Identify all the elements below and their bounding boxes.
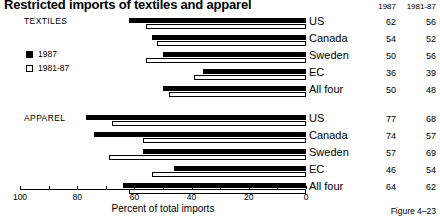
x-axis-tick-label: 80 (62, 192, 92, 202)
value-1981-87: 62 (404, 182, 436, 192)
x-axis-tick (106, 186, 107, 189)
x-axis-tick (134, 186, 135, 189)
value-1981-87: 56 (404, 17, 436, 27)
value-1981-87: 52 (404, 34, 436, 44)
x-axis-line (20, 189, 306, 190)
value-1987: 77 (370, 114, 396, 124)
x-axis-tick (20, 186, 21, 189)
category-label: Sweden (309, 146, 349, 158)
value-1981-87: 69 (404, 148, 436, 158)
category-label: EC (309, 66, 324, 78)
x-axis-tick-label: 40 (177, 192, 207, 202)
x-axis-tick (163, 186, 164, 189)
x-axis-tick (220, 186, 221, 189)
figure-container: Restricted imports of textiles and appar… (0, 0, 440, 221)
bar-1981-87 (146, 58, 306, 63)
category-label: US (309, 15, 324, 27)
bar-1981-87 (152, 172, 306, 177)
bar-1987 (203, 69, 306, 74)
category-label: US (309, 112, 324, 124)
value-1987: 50 (370, 51, 396, 61)
value-1981-87: 39 (404, 68, 436, 78)
x-axis-tick (49, 186, 50, 189)
x-axis-tick (77, 186, 78, 189)
bar-1981-87 (157, 41, 306, 46)
category-label: Sweden (309, 49, 349, 61)
category-label: Canada (309, 129, 348, 141)
value-1987: 50 (370, 85, 396, 95)
value-1981-87: 56 (404, 51, 436, 61)
x-axis-tick-label: 0 (291, 192, 321, 202)
value-1987: 64 (370, 182, 396, 192)
bar-1981-87 (109, 155, 306, 160)
x-axis-title: Percent of total imports (20, 203, 306, 214)
bar-1981-87 (112, 121, 306, 126)
bar-1981-87 (146, 24, 306, 29)
value-1987: 62 (370, 17, 396, 27)
bar-1987 (174, 166, 306, 171)
value-1981-87: 68 (404, 114, 436, 124)
x-axis-tick (249, 186, 250, 189)
x-axis-tick (192, 186, 193, 189)
bar-1987 (163, 86, 306, 91)
bar-1987 (129, 18, 306, 23)
x-axis-tick-label: 60 (119, 192, 149, 202)
category-label: Canada (309, 32, 348, 44)
bar-1987 (143, 149, 306, 154)
bar-1981-87 (143, 138, 306, 143)
value-1981-87: 54 (404, 165, 436, 175)
bar-1981-87 (194, 75, 306, 80)
figure-caption: Figure 4–23 (391, 206, 436, 216)
bar-1987 (163, 52, 306, 57)
bar-1981-87 (169, 92, 306, 97)
value-1987: 57 (370, 148, 396, 158)
x-axis-tick-label: 20 (234, 192, 264, 202)
bar-1987 (86, 115, 306, 120)
x-axis-tick-label: 100 (5, 192, 35, 202)
value-1981-87: 48 (404, 85, 436, 95)
category-label: All four (309, 180, 343, 192)
x-axis-tick (277, 186, 278, 189)
bar-1987 (152, 35, 306, 40)
category-label: All four (309, 83, 343, 95)
category-label: EC (309, 163, 324, 175)
x-axis-tick (306, 186, 307, 189)
value-1987: 46 (370, 165, 396, 175)
bar-1987 (123, 183, 306, 188)
value-1987: 74 (370, 131, 396, 141)
value-1981-87: 57 (404, 131, 436, 141)
bar-1987 (94, 132, 306, 137)
value-1987: 36 (370, 68, 396, 78)
value-1987: 54 (370, 34, 396, 44)
